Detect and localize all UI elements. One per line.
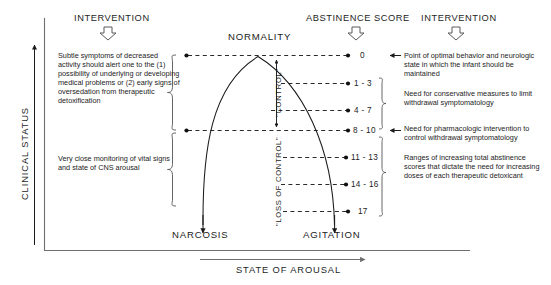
down-arrow-icon-abstinence-score [348, 27, 364, 40]
right-note-increasing-ranges: Ranges of increasing total abstinence sc… [404, 153, 544, 180]
pole-label-normality: NORMALITY [228, 31, 291, 42]
score-value-4-7: 4 - 7 [354, 106, 372, 115]
y-axis-title: CLINICAL STATUS [20, 107, 30, 200]
abstinence-score-diagram: CLINICAL STATUS STATE OF AROUSAL INTERVE… [0, 0, 551, 285]
header-intervention-right: INTERVENTION [421, 13, 497, 23]
zone-label-loss-of-control: "LOSS OF CONTROL" [274, 137, 283, 226]
score-value-17: 17 [358, 207, 368, 216]
down-arrow-icon-intervention-left [100, 27, 116, 40]
right-note-pharmacologic-intervention: Need for pharmacologic intervention to c… [404, 124, 544, 142]
x-axis-title: STATE OF AROUSAL [236, 265, 341, 275]
down-arrow-icon-intervention-right [448, 27, 464, 40]
score-reference-lines [188, 56, 346, 212]
score-value-8-10: 8 - 10 [353, 126, 376, 135]
pole-label-agitation: AGITATION [303, 229, 360, 240]
score-value-0: 0 [360, 51, 365, 60]
right-brace-conservative [379, 78, 386, 129]
zone-label-control: "CONTROL" [274, 68, 283, 117]
score-value-11-13: 11 - 13 [351, 153, 378, 162]
right-note-optimal-behavior: Point of optimal behavior and neurologic… [404, 51, 544, 78]
clinical-status-curve [203, 57, 335, 226]
score-data-points [184, 53, 350, 213]
score-value-14-16: 14 - 16 [351, 180, 379, 189]
right-brace-ranges [379, 137, 386, 216]
score-value-1-3: 1 - 3 [354, 79, 372, 88]
header-intervention-left: INTERVENTION [74, 13, 150, 23]
header-abstinence-score: ABSTINENCE SCORE [306, 13, 410, 23]
left-note-oversedation: Subtle symptoms of decreased activity sh… [58, 51, 180, 106]
left-note-monitoring: Very close monitoring of vital signs and… [58, 154, 180, 172]
right-note-conservative-measures: Need for conservative measures to limit … [404, 89, 544, 107]
pole-label-narcosis: NARCOSIS [172, 229, 229, 240]
